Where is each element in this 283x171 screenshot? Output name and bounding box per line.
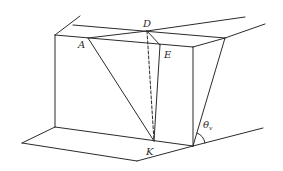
label-E: E (163, 49, 172, 60)
line-EK (154, 45, 160, 141)
top-right-face-edge (193, 38, 225, 47)
theta-subscript: v (209, 124, 213, 131)
block-front-bottom-edge (55, 127, 193, 146)
angle-arc (197, 133, 205, 143)
ground-front-edge (22, 143, 137, 161)
label-A: A (77, 39, 85, 50)
d-far-line (147, 17, 245, 31)
line-AK (88, 38, 154, 141)
ground-right-edge (193, 128, 263, 146)
d-extension-line (88, 31, 147, 38)
block-front-top-edge (55, 35, 193, 47)
label-theta: θv (203, 119, 213, 131)
line-DK-dashed (147, 31, 154, 141)
label-D: D (142, 18, 151, 29)
label-K: K (145, 146, 154, 157)
geometry-diagram: D A E K θv (0, 0, 283, 171)
ground-left-edge (22, 127, 55, 143)
right-extension-edge (225, 24, 265, 38)
